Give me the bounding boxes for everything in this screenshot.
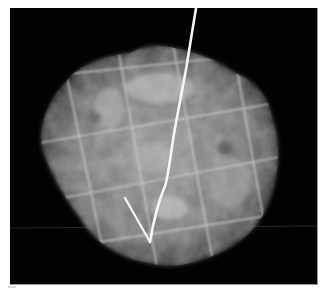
tissue-specimen [10,8,317,284]
radiograph-svg [10,8,317,284]
corner-mark [8,286,16,288]
radiograph-image [10,8,318,285]
